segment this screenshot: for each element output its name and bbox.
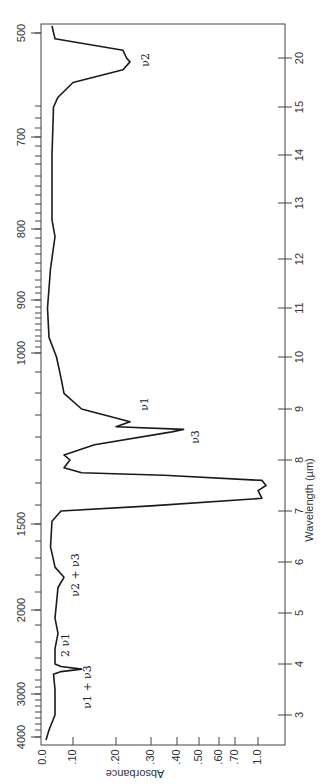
absorbance-tick-label: .10 [66,749,78,764]
wavelength-tick-label: 5 [293,610,305,616]
wavelength-tick-label: 6 [293,559,305,565]
wavenumber-tick-label: 500 [15,24,27,42]
wavelength-tick-label: 12 [293,253,305,265]
wavelength-tick-label: 14 [293,149,305,161]
wavenumber-tick-label: 700 [15,128,27,146]
wavelength-tick-label: 11 [293,302,305,313]
wavelength-tick-label: 4 [293,661,305,667]
wavenumber-tick-label: 1000 [15,341,27,365]
wavelength-axis: 345678910111213141520 [278,52,305,718]
wavelength-tick-label: 9 [293,406,305,412]
absorbance-axis: 0.0.10.20.30.40.50.60.701.0 [36,737,263,765]
wavelength-tick-label: 20 [293,52,305,64]
wavelength-tick-label: 10 [293,351,305,363]
absorbance-tick-label: .30 [144,749,156,764]
absorbance-tick-label: 1.0 [251,749,263,764]
absorbance-tick-label: .50 [192,749,204,764]
ir-spectrum-chart: 40003000200015001000900800700500 3456789… [0,0,325,784]
wavenumber-tick-label: 2000 [15,598,27,622]
peak-label: ν2 [139,53,152,67]
wavenumber-tick-label: 1500 [15,512,27,536]
wavelength-axis-label: Wavelength (µm) [303,458,315,542]
absorbance-axis-label: Absorbance [106,768,165,780]
spectrum-line [46,26,266,740]
absorbance-tick-label: .60 [212,749,224,764]
wavelength-tick-label: 13 [293,197,305,209]
absorbance-tick-label: 0.0 [36,749,48,764]
absorbance-tick-label: .70 [228,749,240,764]
peak-label: ν1 + ν3 [81,665,94,709]
absorbance-tick-label: .40 [170,749,182,764]
wavelength-tick-label: 3 [293,712,305,718]
peak-label: ν3 [189,430,202,444]
wavelength-tick-label: 15 [293,101,305,113]
wavenumber-axis: 40003000200015001000900800700500 [15,24,41,749]
peak-label: ν2 + ν3 [69,553,82,597]
peak-annotations: ν2ν1ν3ν2 + ν32 ν1ν1 + ν3 [59,53,202,709]
absorbance-tick-label: .20 [109,749,121,764]
peak-label: ν1 [138,397,151,411]
wavenumber-tick-label: 900 [15,291,27,309]
wavenumber-tick-label: 4000 [15,725,27,749]
peak-label: 2 ν1 [59,633,72,657]
wavenumber-tick-label: 800 [15,220,27,238]
plot-frame [41,24,285,745]
wavenumber-tick-label: 3000 [15,682,27,706]
